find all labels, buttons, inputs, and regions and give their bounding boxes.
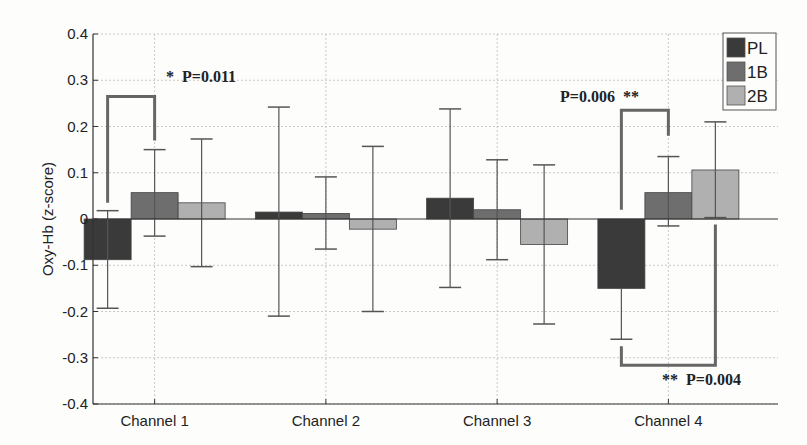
legend-swatch-1b <box>727 62 745 81</box>
x-tick-label: Channel 2 <box>292 412 360 429</box>
y-tick-label: -0.1 <box>62 256 88 273</box>
bar-chart: 0.40.30.20.10-0.1-0.2-0.3-0.4 Channel 1C… <box>0 0 807 445</box>
bars <box>84 170 739 288</box>
legend-label-1b: 1B <box>747 63 768 82</box>
bar-pl <box>598 219 645 288</box>
x-tick-label: Channel 1 <box>120 412 188 429</box>
legend-swatch-2b <box>727 86 745 105</box>
legend-label-pl: PL <box>747 39 768 58</box>
x-tick-labels: Channel 1Channel 2Channel 3Channel 4 <box>120 412 702 429</box>
x-tick-label: Channel 4 <box>634 412 702 429</box>
y-tick-label: -0.4 <box>62 395 88 412</box>
y-tick-label: 0.4 <box>67 25 88 42</box>
legend: PL1B2B <box>723 33 776 110</box>
x-tick-label: Channel 3 <box>463 412 531 429</box>
axes <box>93 34 778 404</box>
annotation-ch1: * P=0.011 <box>166 68 236 85</box>
y-tick-labels: 0.40.30.20.10-0.1-0.2-0.3-0.4 <box>62 25 88 412</box>
y-tick-label: 0.3 <box>67 71 88 88</box>
y-tick-label: -0.2 <box>62 303 88 320</box>
legend-label-2b: 2B <box>747 87 768 106</box>
y-tick-label: 0 <box>80 210 88 227</box>
legend-swatch-pl <box>727 38 745 57</box>
y-tick-label: 0.1 <box>67 164 88 181</box>
y-tick-label: -0.3 <box>62 349 88 366</box>
annotation-ch4-1b: P=0.006 ** <box>560 88 639 105</box>
y-tick-label: 0.2 <box>67 118 88 135</box>
y-axis-label: Oxy-Hb (z-score) <box>39 162 56 276</box>
annotation-ch4-2b: ** P=0.004 <box>662 371 741 388</box>
